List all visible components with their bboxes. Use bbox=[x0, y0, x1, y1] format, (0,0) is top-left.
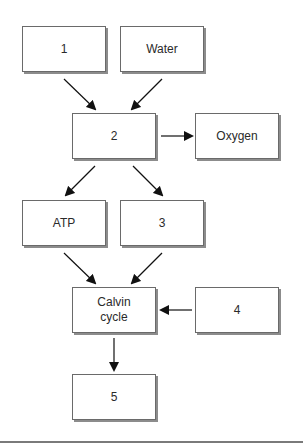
node-water-label: Water bbox=[146, 42, 178, 57]
node-4: 4 bbox=[195, 287, 279, 333]
node-2: 2 bbox=[72, 113, 156, 159]
arrow-2-to-3 bbox=[133, 166, 162, 195]
bottom-divider bbox=[0, 441, 303, 443]
node-4-label: 4 bbox=[234, 303, 241, 318]
photosynthesis-flow-diagram: 1 Water 2 Oxygen ATP 3 Calvin cycle 4 5 bbox=[0, 0, 303, 444]
arrow-3-to-calvin bbox=[132, 253, 162, 283]
node-1-label: 1 bbox=[61, 42, 68, 57]
node-2-label: 2 bbox=[111, 129, 118, 144]
node-5-label: 5 bbox=[111, 390, 118, 405]
node-3: 3 bbox=[120, 200, 204, 246]
node-oxygen-label: Oxygen bbox=[216, 129, 257, 144]
node-atp-label: ATP bbox=[53, 216, 75, 231]
node-1: 1 bbox=[22, 26, 106, 72]
arrow-1-to-2 bbox=[64, 79, 95, 109]
node-5: 5 bbox=[72, 374, 156, 420]
node-oxygen: Oxygen bbox=[195, 113, 279, 159]
arrow-atp-to-calvin bbox=[64, 253, 95, 283]
node-water: Water bbox=[120, 26, 204, 72]
node-atp: ATP bbox=[22, 200, 106, 246]
node-3-label: 3 bbox=[159, 216, 166, 231]
arrow-water-to-2 bbox=[132, 79, 162, 109]
arrow-2-to-atp bbox=[66, 166, 95, 195]
node-calvin-cycle: Calvin cycle bbox=[72, 287, 156, 333]
node-calvin-cycle-label: Calvin cycle bbox=[97, 295, 130, 325]
